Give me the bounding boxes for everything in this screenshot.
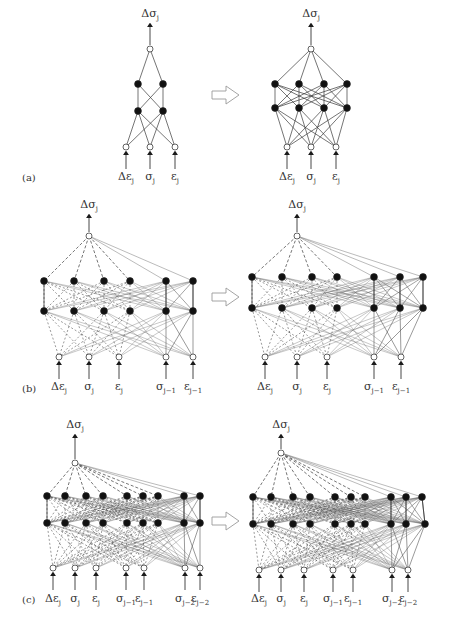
input-node: [86, 354, 92, 360]
hidden-node-layer1: [272, 81, 279, 88]
hidden-node-layer2: [403, 521, 410, 528]
input-label: σj: [306, 171, 316, 187]
hidden-node-layer2: [83, 520, 90, 527]
hidden-node-layer1: [371, 274, 378, 281]
hidden-node-layer2: [181, 520, 188, 527]
hidden-node-layer2: [422, 521, 429, 528]
label-subscript: j: [65, 387, 67, 395]
hidden-node-layer2: [100, 520, 107, 527]
label-symbol: σ: [364, 380, 372, 393]
input-node: [301, 567, 307, 573]
hidden-node-layer1: [83, 493, 90, 500]
output-edge: [271, 453, 281, 497]
input-node: [147, 144, 153, 150]
cross-input-edge: [304, 524, 391, 570]
input-label: Δεj: [257, 381, 273, 397]
input-label: Δεj: [51, 381, 67, 397]
label-subscript: j−1: [141, 599, 154, 607]
hidden-node-layer1: [249, 274, 256, 281]
label-subscript: j: [157, 14, 159, 22]
input-label: σj: [276, 593, 286, 609]
output-edge: [311, 49, 324, 84]
output-edge: [299, 49, 311, 84]
cross-input-edge: [259, 524, 406, 570]
hidden-node-layer1: [127, 278, 134, 285]
hidden-node-layer2: [127, 308, 134, 315]
label-symbol: σ: [382, 592, 390, 605]
hidden-node-layer1: [155, 493, 162, 500]
hidden-node-layer1: [348, 494, 355, 501]
dashed-input-edge: [304, 524, 365, 570]
label-subscript: j: [82, 425, 84, 433]
hidden-node-layer1: [197, 493, 204, 500]
label-subscript: j: [300, 387, 302, 395]
dashed-input-edge: [304, 524, 310, 570]
label-symbol: Δε: [279, 170, 293, 183]
hidden-node-layer1: [71, 278, 78, 285]
output-node: [72, 460, 78, 466]
hidden-node-layer2: [71, 308, 78, 315]
hidden-node-layer2: [296, 105, 303, 112]
output-edge: [281, 453, 391, 497]
hidden-node-layer2: [371, 305, 378, 312]
hidden-node-layer2: [332, 521, 339, 528]
input-node: [50, 565, 56, 571]
input-node: [278, 567, 284, 573]
cross-input-edge: [327, 308, 400, 357]
input-label: Δεj: [279, 171, 295, 187]
output-node: [278, 450, 284, 456]
history-input-edge: [374, 308, 423, 357]
dashed-input-edge: [47, 523, 126, 568]
dashed-input-edge: [265, 308, 282, 357]
label-subscript: j: [338, 177, 340, 185]
label-subscript: j−2: [197, 599, 210, 607]
label-subscript: j: [329, 387, 331, 395]
hidden-node-layer2: [321, 105, 328, 112]
hidden-node-layer1: [419, 494, 426, 501]
history-input-edge: [392, 524, 425, 570]
hidden-node-layer2: [250, 521, 257, 528]
hidden-node-layer2: [44, 520, 51, 527]
cross-input-edge: [104, 311, 166, 357]
cross-input-edge: [126, 523, 184, 568]
label-symbol: Δσ: [302, 7, 317, 20]
dashed-input-edge: [47, 523, 96, 568]
label-subscript: j: [306, 599, 308, 607]
label-subscript: j: [92, 387, 94, 395]
hidden-node-layer1: [124, 493, 131, 500]
hidden-node-layer1: [420, 274, 427, 281]
output-edge: [75, 463, 103, 496]
output-label: Δσj: [272, 419, 290, 435]
label-subscript: j: [318, 14, 320, 22]
hidden-node-layer1: [190, 278, 197, 285]
input-node: [197, 565, 203, 571]
hidden-node-layer1: [163, 278, 170, 285]
output-edge: [282, 236, 297, 277]
input-label: σj−1: [116, 593, 136, 609]
label-symbol: Δσ: [141, 7, 156, 20]
input-node: [163, 354, 169, 360]
input-node: [141, 565, 147, 571]
label-symbol: σ: [276, 592, 284, 605]
output-edge: [297, 236, 312, 277]
cross-input-edge: [333, 524, 425, 570]
label-subscript: j: [96, 205, 98, 213]
cross-input-edge: [312, 308, 374, 357]
output-edge: [253, 453, 281, 497]
label-subscript: j−2: [405, 599, 418, 607]
output-edge: [89, 236, 193, 281]
hidden-node-layer2: [268, 521, 275, 528]
output-node: [147, 46, 153, 52]
label-subscript: j: [177, 177, 179, 185]
hidden-node-layer1: [41, 278, 48, 285]
hidden-node-layer1: [160, 81, 167, 88]
cross-input-edge: [53, 523, 200, 568]
output-label: Δσj: [302, 8, 320, 24]
dashed-input-edge: [59, 311, 130, 357]
input-node: [182, 565, 188, 571]
cross-input-edge: [65, 523, 185, 568]
hidden-node-layer2: [135, 108, 142, 115]
hidden-node-layer2: [388, 521, 395, 528]
hidden-node-layer1: [388, 494, 395, 501]
input-label: σj: [70, 593, 80, 609]
